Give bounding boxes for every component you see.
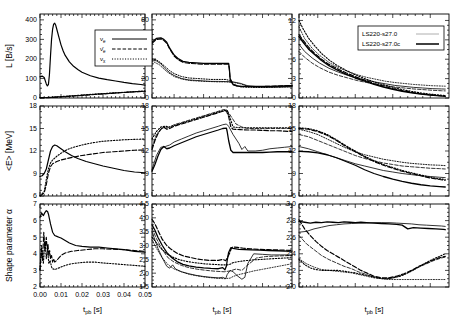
y-tick-label: 12 [29,147,37,154]
y-tick-label: 80 [141,16,149,23]
panel-panel-r2c1 [40,106,145,196]
y-tick-label: 3.0 [139,242,149,249]
y-tick-label: 3 [292,75,296,82]
y-tick-label: 4 [33,250,37,257]
series-line [299,51,445,90]
x-axis-label: tpb [s] [364,305,383,315]
multi-panel-figure: 0100200300400020406080036912691215186912… [0,0,460,325]
series-line [299,135,445,170]
legend-models: LS220-s27.0LS220-s27.0c [358,26,444,50]
series-line [299,236,445,279]
series-line [299,221,445,229]
legend-species-subscript: e [103,49,106,54]
x-axis-label-unit: [s] [221,305,232,314]
y-tick-label: 3 [33,267,37,274]
y-tick-label: 6 [292,56,296,63]
series-line [152,232,292,280]
legend-species: νeν̄eνx [95,30,152,66]
y-tick-label: 0 [292,94,296,101]
x-tick-label: 0.00 [33,291,47,298]
y-tick-label: 7 [33,200,37,207]
y-tick-label: 4.0 [139,214,149,221]
legend-species-subscript: e [103,39,106,44]
y-tick-label: 3.5 [139,228,149,235]
y-tick-label: 2 [33,283,37,290]
y-tick-label: 12 [141,147,149,154]
series-line [40,145,145,177]
plot-frame [40,204,145,287]
legend-model-label: LS220-s27.0 [362,30,398,37]
y-tick-label: 9 [145,170,149,177]
panel-panel-r3c1 [40,204,145,287]
y-tick-label: 15 [141,125,149,132]
plot-frame [299,106,449,196]
y-tick-label: 18 [29,102,37,109]
x-axis-label: tpb [s] [83,305,102,315]
x-tick-label: 0.04 [117,291,131,298]
panel-panel-r3c3 [299,204,449,287]
panel-panel-r1c2 [152,14,292,98]
series-line [40,211,145,253]
y-tick-label: 18 [288,102,296,109]
y-tick-label: 2.8 [286,217,296,224]
y-tick-label: 12 [288,17,296,24]
series-line [40,139,145,196]
x-axis-label-unit: [s] [373,305,384,314]
series-line [152,225,292,270]
panel-panel-r2c3 [299,106,449,196]
panel-panel-r3c2 [152,204,292,287]
y-tick-label: 400 [25,16,37,23]
y-tick-label: 4.5 [139,200,149,207]
x-tick-label: 0.01 [54,291,68,298]
figure-panel-grid: 0100200300400020406080036912691215186912… [0,0,460,325]
plot-frame [152,106,292,196]
y-axis-label-shape-parameter: Shape parameter α [4,209,14,282]
panel-panel-r2c2 [152,106,292,196]
x-tick-label: 0.02 [75,291,89,298]
y-tick-label: 9 [292,36,296,43]
y-tick-label: 1.5 [139,283,149,290]
y-tick-label: 18 [141,102,149,109]
series-line [152,128,292,171]
y-axis-label-mean-energy: <E> [MeV] [4,131,14,171]
y-tick-label: 6 [33,192,37,199]
y-tick-label: 5 [33,234,37,241]
plot-frame [152,204,292,287]
series-line [40,91,145,98]
y-tick-label: 100 [25,75,37,82]
y-tick-label: 2.5 [139,256,149,263]
y-tick-label: 9 [292,170,296,177]
y-tick-label: 300 [25,36,37,43]
y-tick-label: 12 [288,147,296,154]
y-tick-label: 6 [145,192,149,199]
y-tick-label: 9 [33,170,37,177]
series-line [299,223,445,233]
y-tick-label: 6 [292,192,296,199]
y-axis-label-luminosity: L [B/s] [4,44,14,68]
y-tick-label: 2.4 [286,250,296,257]
x-tick-label: 0.03 [96,291,110,298]
y-tick-label: 15 [29,125,37,132]
y-tick-label: 20 [141,75,149,82]
x-axis-label: tpb [s] [212,305,231,315]
y-tick-label: 15 [288,125,296,132]
series-line [40,241,145,270]
y-tick-label: 6 [33,217,37,224]
plot-frame [299,204,449,287]
series-line [40,232,145,270]
y-tick-label: 200 [25,55,37,62]
y-tick-label: 2.0 [286,283,296,290]
series-line [152,111,292,150]
plot-frame [152,14,292,98]
y-tick-label: 0 [145,94,149,101]
x-tick-label: 0.05 [138,291,152,298]
legend-model-label: LS220-s27.0c [362,40,400,47]
y-tick-label: 2.6 [286,234,296,241]
x-axis-label-unit: [s] [91,305,102,314]
y-tick-label: 2.2 [286,267,296,274]
y-tick-label: 2.0 [139,270,149,277]
y-tick-label: 3.0 [286,200,296,207]
y-tick-label: 0 [33,94,37,101]
